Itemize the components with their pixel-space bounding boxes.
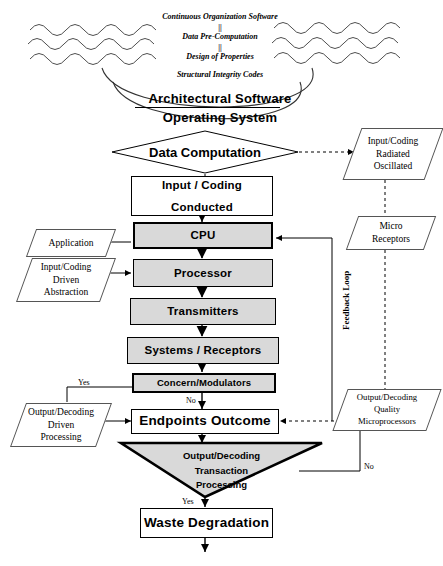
input-coding-line2: Conducted xyxy=(171,200,233,215)
io-driven-line-2: Abstraction xyxy=(44,286,88,299)
header-note-2: Data Pre-Computation xyxy=(0,32,440,41)
io-outdriven-line-2: Processing xyxy=(40,431,81,444)
header-note-0: Continuous Organization Software xyxy=(0,12,440,21)
node-systems-receptors[interactable]: Systems / Receptors xyxy=(127,337,279,364)
concern-modulators-label: Concern/Modulators xyxy=(157,377,251,390)
edge-label-yes-triangle: Yes xyxy=(182,497,194,506)
banner-operating-system: Operating System xyxy=(0,110,440,125)
node-endpoints-outcome[interactable]: Endpoints Outcome xyxy=(131,409,279,434)
io-application-line-0: Application xyxy=(49,237,94,250)
io-radiated-line-2: Oscillated xyxy=(374,160,413,173)
io-output-decoding-driven[interactable]: Output/Decoding Driven Processing xyxy=(18,403,104,447)
transaction-triangle-text: Output/Decoding Transaction Processing xyxy=(121,449,322,493)
node-processor[interactable]: Processor xyxy=(133,259,273,287)
header-note-3: || xyxy=(0,43,440,52)
io-quality-line-2: Microprocessors xyxy=(358,416,416,428)
triangle-line-0: Output/Decoding xyxy=(183,449,260,464)
io-quality-line-1: Quality xyxy=(374,404,400,416)
node-input-coding[interactable]: Input / Coding Conducted xyxy=(131,176,273,216)
data-computation-diamond[interactable]: Data Computation xyxy=(112,131,298,173)
cpu-label: CPU xyxy=(191,228,216,243)
io-micro-line-1: Receptors xyxy=(372,233,410,246)
io-outdriven-line-1: Driven xyxy=(48,419,74,432)
io-input-coding-driven[interactable]: Input/Coding Driven Abstraction xyxy=(24,258,108,302)
header-note-1: || xyxy=(0,23,440,32)
processor-label: Processor xyxy=(174,266,232,281)
endpoints-outcome-label: Endpoints Outcome xyxy=(139,413,271,430)
io-radiated-line-0: Input/Coding xyxy=(368,135,419,148)
waste-degradation-label: Waste Degradation xyxy=(144,515,269,532)
edge-label-yes-concern: Yes xyxy=(78,378,90,387)
io-radiated-line-1: Radiated xyxy=(376,148,410,161)
node-transmitters[interactable]: Transmitters xyxy=(130,298,276,325)
io-micro-receptors[interactable]: Micro Receptors xyxy=(352,216,430,250)
banner-architectural-software: Architectural Software xyxy=(0,91,440,106)
header-note-5: Structural Integrity Codes xyxy=(0,70,440,79)
node-cpu[interactable]: CPU xyxy=(133,222,273,249)
edge-label-no-triangle: No xyxy=(364,462,374,471)
io-driven-line-0: Input/Coding xyxy=(41,261,92,274)
triangle-line-2: Processing xyxy=(196,478,247,493)
node-concern-modulators[interactable]: Concern/Modulators xyxy=(132,373,276,393)
input-coding-line1: Input / Coding xyxy=(162,178,242,193)
edge-feedback-loop-to-cpu xyxy=(276,238,332,421)
triangle-line-1: Transaction xyxy=(195,464,248,479)
io-output-decoding-quality[interactable]: Output/Decoding Quality Microprocessors xyxy=(340,389,434,431)
io-application[interactable]: Application xyxy=(31,229,111,257)
data-computation-label: Data Computation xyxy=(112,131,298,173)
edge-concern-yes-left xyxy=(67,387,133,402)
transmitters-label: Transmitters xyxy=(167,304,238,319)
header-note-4: Design of Properties xyxy=(0,52,440,61)
node-waste-degradation[interactable]: Waste Degradation xyxy=(140,508,273,538)
systems-receptors-label: Systems / Receptors xyxy=(145,343,262,358)
io-micro-line-0: Micro xyxy=(379,220,402,233)
feedback-loop-label: Feedback Loop xyxy=(341,271,351,330)
transaction-triangle[interactable]: Output/Decoding Transaction Processing xyxy=(121,443,322,497)
io-quality-line-0: Output/Decoding xyxy=(357,392,417,404)
io-driven-line-1: Driven xyxy=(53,274,79,287)
edge-label-no-concern: No xyxy=(186,396,196,405)
io-outdriven-line-0: Output/Decoding xyxy=(28,406,94,419)
io-input-coding-radiated[interactable]: Input/Coding Radiated Oscillated xyxy=(352,128,434,180)
banner-underline xyxy=(135,107,280,108)
